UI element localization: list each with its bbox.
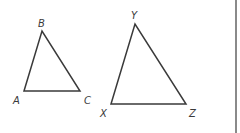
vertex-label-y: Y	[131, 10, 138, 21]
vertex-label-c: C	[84, 95, 91, 106]
right-border-divider	[235, 0, 237, 133]
triangle-xyz	[111, 24, 186, 104]
vertex-label-z: Z	[188, 108, 197, 119]
vertex-label-x: X	[99, 108, 108, 119]
triangle-abc	[24, 31, 80, 91]
vertex-label-b: B	[38, 18, 45, 29]
triangles-diagram: A B C X Y Z	[0, 0, 240, 133]
vertex-label-a: A	[12, 95, 20, 106]
